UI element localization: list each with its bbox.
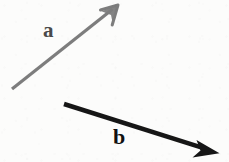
vector-a-label: a <box>43 20 54 41</box>
vector-b-label: b <box>113 126 125 148</box>
vector-diagram-figure: a b <box>0 0 229 162</box>
